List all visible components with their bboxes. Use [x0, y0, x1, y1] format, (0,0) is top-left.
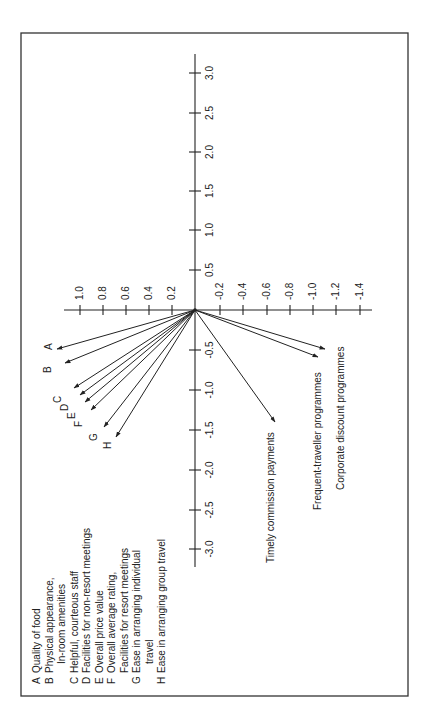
- legend-item-h: Ease in arranging group travel: [156, 539, 167, 673]
- tick-label: 1.5: [204, 184, 215, 198]
- legend-key: F: [106, 678, 117, 684]
- tick-label: 0.4: [143, 286, 154, 300]
- legend-item-a: Quality of food: [31, 609, 42, 673]
- legend-item-b-cont: In-room amenities: [56, 584, 67, 664]
- frequent-traveller-label: Frequent-traveller programmes: [312, 372, 323, 510]
- tick-label: 2.0: [204, 145, 215, 159]
- vector-d-arrow: [80, 310, 195, 395]
- tick-label: 1.0: [204, 223, 215, 237]
- tick-label: -3.0: [204, 540, 215, 558]
- vector-e-arrow: [85, 310, 195, 402]
- legend-key: C: [69, 677, 80, 684]
- vector-label-d: D: [59, 404, 70, 411]
- vector-c-arrow: [74, 310, 195, 388]
- legend-key: B: [44, 677, 55, 684]
- legend-item-f-cont: Facilities for resort meetings: [119, 548, 130, 673]
- legend-key: A: [31, 677, 42, 684]
- legend-item-c: Helpful, courteous staff: [69, 571, 80, 673]
- legend-item-b: Physical appearance,: [44, 577, 55, 673]
- tick-label: -1.4: [354, 282, 365, 300]
- origin-point: [193, 308, 197, 312]
- vector-label-c: C: [52, 396, 63, 403]
- legend-item-e: Overall price value: [94, 590, 105, 673]
- tick-label: -0.4: [237, 282, 248, 300]
- tick-label: 0.2: [166, 286, 177, 300]
- tick-label: -2.5: [204, 501, 215, 519]
- tick-label: -2.0: [204, 461, 215, 479]
- vector-g-arrow: [104, 310, 195, 427]
- vector-label-h: H: [102, 442, 113, 449]
- vector-label-f: F: [73, 421, 84, 427]
- tick-label: 0.6: [120, 286, 131, 300]
- legend-item-g-cont: travel: [144, 640, 155, 664]
- tick-label: -1.0: [204, 381, 215, 399]
- tick-label: 2.5: [204, 106, 215, 120]
- vectors: [57, 310, 325, 437]
- legend-key: D: [81, 677, 92, 684]
- legend-item-g: Ease in arranging individual: [131, 550, 142, 673]
- legend: A Quality of food B Physical appearance,…: [31, 528, 167, 684]
- timely-commission-label: Timely commission payments: [265, 432, 276, 563]
- axes: [64, 54, 372, 567]
- vector-b-arrow: [65, 310, 195, 363]
- tick-label: 3.0: [204, 66, 215, 80]
- tick-label: -1.5: [204, 421, 215, 439]
- tick-label: 1.0: [74, 286, 85, 300]
- biplot-figure: 3.0 2.5 2.0 1.5 1.0 0.5 -0.5 -1.0 -1.5 -…: [0, 0, 427, 724]
- vertical-tick-labels: 3.0 2.5 2.0 1.5 1.0 0.5 -0.5 -1.0 -1.5 -…: [204, 66, 215, 558]
- vector-label-a: A: [43, 343, 54, 350]
- variable-labels: Timely commission payments Frequent-trav…: [265, 347, 346, 563]
- vector-timely-arrow: [195, 310, 275, 422]
- vector-label-b: B: [42, 366, 53, 373]
- tick-label: -1.2: [330, 282, 341, 300]
- tick-label: -0.2: [214, 282, 225, 300]
- tick-label: -0.5: [204, 341, 215, 359]
- legend-key: E: [94, 677, 105, 684]
- legend-item-f: Overall average rating,: [106, 572, 117, 673]
- vector-letter-labels: A B C D E F G H: [42, 343, 113, 449]
- horizontal-tick-labels: 1.0 0.8 0.6 0.4 0.2 -0.2 -0.4 -0.6 -0.8 …: [74, 282, 365, 300]
- legend-item-d: Facilities for non-resort meetings: [81, 528, 92, 673]
- legend-key: G: [131, 676, 142, 684]
- tick-label: -1.0: [307, 282, 318, 300]
- tick-label: -0.6: [261, 282, 272, 300]
- vector-label-g: G: [88, 433, 99, 441]
- vector-label-e: E: [66, 412, 77, 419]
- corporate-discount-label: Corporate discount programmes: [335, 347, 346, 490]
- legend-key: H: [156, 677, 167, 684]
- tick-label: 0.5: [204, 263, 215, 277]
- tick-label: -0.8: [284, 282, 295, 300]
- tick-label: 0.8: [97, 286, 108, 300]
